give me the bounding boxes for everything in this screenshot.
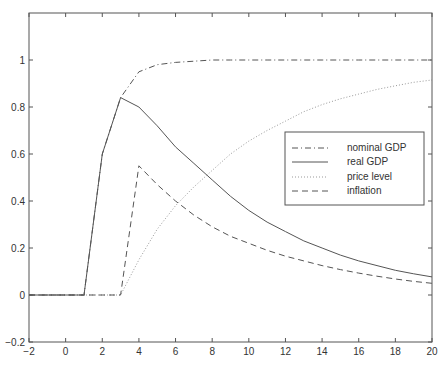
x-tick-label: 14 (317, 346, 329, 357)
y-tick-label: 0.8 (11, 102, 25, 113)
legend-label-nominal-gdp: nominal GDP (347, 142, 407, 153)
x-tick-label: 4 (136, 346, 142, 357)
x-tick-label: 0 (63, 346, 69, 357)
x-tick-label: 20 (426, 346, 438, 357)
x-tick-label: 2 (99, 346, 105, 357)
y-tick-label: 0.4 (11, 196, 25, 207)
y-tick-label: 0.2 (11, 243, 25, 254)
y-tick-label: −0.2 (5, 337, 25, 348)
legend-label-price-level: price level (347, 171, 392, 182)
x-tick-label: 10 (243, 346, 255, 357)
x-tick-label: 18 (390, 346, 402, 357)
x-tick-label: −2 (23, 346, 35, 357)
y-tick-label: 0.6 (11, 149, 25, 160)
legend-label-real-gdp: real GDP (347, 156, 388, 167)
x-tick-label: 16 (353, 346, 365, 357)
line-chart: −202468101214161820 −0.200.20.40.60.81 n… (0, 0, 447, 367)
x-tick-label: 6 (173, 346, 179, 357)
y-tick-label: 0 (19, 290, 25, 301)
legend-label-inflation: inflation (347, 185, 381, 196)
y-tick-label: 1 (19, 55, 25, 66)
x-tick-label: 12 (280, 346, 292, 357)
x-tick-label: 8 (209, 346, 215, 357)
legend: nominal GDP real GDP price level inflati… (285, 132, 424, 205)
